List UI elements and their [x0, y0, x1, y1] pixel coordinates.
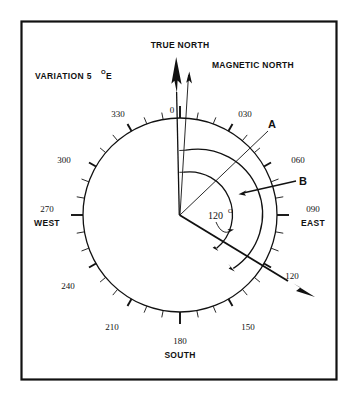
point-label-a: A: [268, 118, 276, 130]
bearing-label-210: 210: [105, 322, 119, 332]
bearing-label-270: 270: [40, 204, 54, 214]
cardinal-label-south: SOUTH: [164, 350, 195, 360]
bearing-label-180: 180: [173, 336, 187, 346]
angle-label-degree-symbol: O: [228, 207, 233, 214]
bearing-120-arrowhead: [294, 284, 316, 298]
bearing-line-a: [180, 131, 268, 215]
cardinal-label-west: WEST: [34, 218, 60, 228]
true-north-line: [177, 92, 180, 215]
bearing-label-090: 090: [306, 204, 320, 214]
leader-line-b: [243, 181, 296, 193]
point-label-b: B: [299, 175, 307, 187]
variation-suffix: E: [106, 71, 112, 81]
variation-label: VARIATION 5: [35, 71, 92, 81]
bearing-label-330: 330: [111, 109, 125, 119]
compass-diagram: 0 030 060 090 EAST 120 150 180 SOUTH 210…: [0, 0, 357, 401]
bearing-label-300: 300: [57, 155, 71, 165]
cardinal-label-east: EAST: [301, 218, 325, 228]
true-north-title: TRUE NORTH: [151, 40, 210, 50]
magnetic-north-arrowhead: [186, 72, 192, 84]
bearing-label-030: 030: [238, 109, 252, 119]
bearing-label-150: 150: [241, 322, 255, 332]
true-north-arrow: [171, 57, 181, 93]
magnetic-north-line: [180, 75, 189, 215]
bearing-label-240: 240: [61, 281, 75, 291]
angle-label-leader: [216, 222, 230, 232]
bearing-label-000: 0: [170, 105, 175, 115]
outer-angle-arc: [186, 149, 263, 268]
magnetic-north-title: MAGNETIC NORTH: [212, 60, 294, 70]
bearing-label-060: 060: [291, 155, 305, 165]
figure-canvas: 0 030 060 090 EAST 120 150 180 SOUTH 210…: [0, 0, 357, 401]
angle-label-120: 120: [208, 210, 223, 221]
